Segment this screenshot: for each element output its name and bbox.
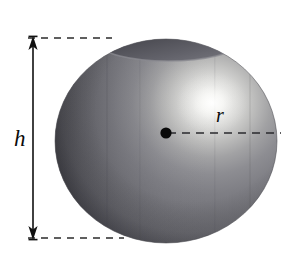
- sphere-figure: h r: [0, 0, 305, 266]
- sphere-center-dot: [160, 127, 171, 138]
- height-dimension-arrow: [28, 36, 37, 240]
- radius-label: r: [216, 105, 224, 125]
- height-label: h: [14, 127, 26, 150]
- sphere-highlight: [176, 72, 248, 134]
- sphere-top-cap: [100, 23, 236, 61]
- sphere-body: [55, 39, 277, 243]
- sphere-diagram-canvas: [0, 0, 305, 266]
